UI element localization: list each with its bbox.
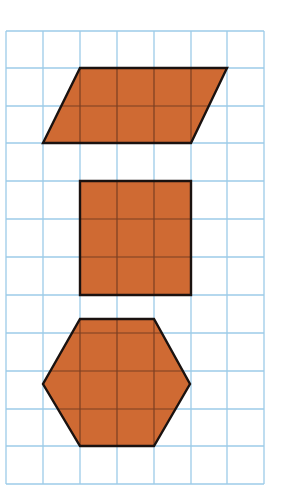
grid-figure: [0, 0, 298, 499]
grid-paper-diagram: [0, 0, 298, 499]
square-fill: [80, 181, 191, 295]
